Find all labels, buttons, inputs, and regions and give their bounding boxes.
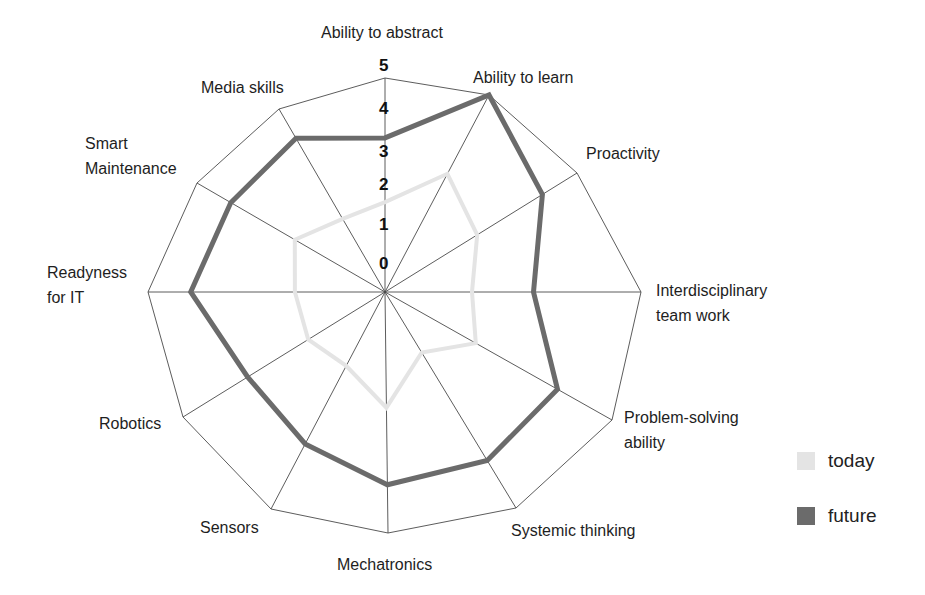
radar-grid <box>148 78 641 533</box>
axis-label-ability-to-abstract: Ability to abstract <box>321 21 443 45</box>
tick-label-2: 2 <box>379 176 388 194</box>
legend-swatch-today <box>797 452 815 470</box>
axis-label-problem-solving-ability: Problem-solving ability <box>624 405 739 455</box>
axis-label-ability-to-learn: Ability to learn <box>473 66 574 90</box>
spoke-10 <box>197 183 385 292</box>
axis-label-robotics: Robotics <box>99 412 161 436</box>
axis-label-mechatronics: Mechatronics <box>337 553 432 577</box>
series-future <box>191 95 558 485</box>
spoke-8 <box>183 292 385 417</box>
axis-label-systemic-thinking: Systemic thinking <box>511 519 636 543</box>
legend-item-today: today <box>797 450 874 472</box>
axis-label-readyness-for-it: Readyness for IT <box>47 260 127 310</box>
tick-label-0: 0 <box>379 255 388 273</box>
spoke-6 <box>385 292 388 533</box>
tick-label-4: 4 <box>379 100 388 118</box>
outer-ring <box>148 78 641 533</box>
tick-label-1: 1 <box>379 216 388 234</box>
axis-label-interdisciplinary-team-work: Interdisciplinary team work <box>656 278 767 328</box>
spoke-5 <box>385 292 516 508</box>
radar-chart <box>0 0 925 595</box>
axis-label-media-skills: Media skills <box>201 76 284 100</box>
radar-series <box>191 95 558 485</box>
axis-label-sensors: Sensors <box>200 516 259 540</box>
axis-label-proactivity: Proactivity <box>586 142 660 166</box>
axis-label-smart-maintenance: Smart Maintenance <box>85 131 177 181</box>
tick-label-3: 3 <box>379 143 388 161</box>
tick-label-5: 5 <box>379 57 388 75</box>
legend-item-future: future <box>797 505 877 527</box>
legend-swatch-future <box>797 507 815 525</box>
